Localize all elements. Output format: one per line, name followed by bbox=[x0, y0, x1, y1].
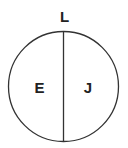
circle-diagram: L E J bbox=[0, 0, 128, 148]
label-top: L bbox=[60, 8, 69, 25]
label-left: E bbox=[34, 79, 44, 96]
label-right: J bbox=[84, 79, 92, 96]
